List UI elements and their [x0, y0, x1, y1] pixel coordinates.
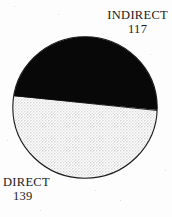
- slice-label-direct: DIRECT 139: [3, 176, 50, 203]
- pie-chart-figure: INDIRECT 117 DIRECT 139: [0, 0, 172, 217]
- slice-label-indirect-name: INDIRECT: [107, 9, 168, 22]
- slice-label-indirect: INDIRECT 117: [107, 9, 168, 36]
- pie-svg: [12, 36, 158, 179]
- slice-label-direct-value: 139: [3, 190, 50, 203]
- slice-label-indirect-value: 117: [107, 23, 168, 36]
- slice-label-direct-name: DIRECT: [3, 176, 50, 189]
- pie-chart-graphic: [12, 36, 158, 179]
